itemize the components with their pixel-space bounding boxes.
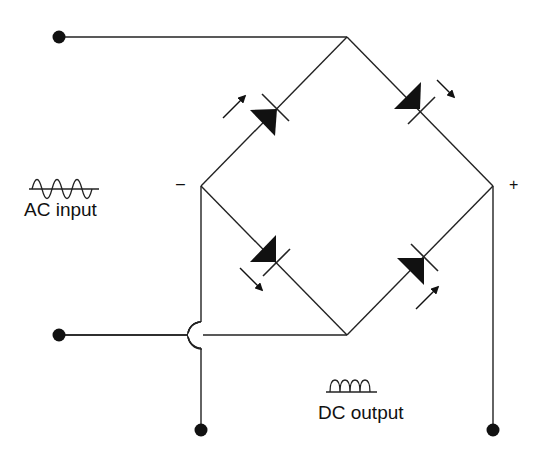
rectified-wave-icon: [326, 380, 377, 392]
terminal-ac-top: [53, 31, 66, 44]
ac-wire-bottom-left: [59, 322, 201, 335]
ac-input-label: AC input: [24, 199, 97, 221]
diode-bottom-right-icon: [397, 244, 438, 309]
negative-terminal-sign: –: [176, 175, 185, 193]
bridge-rectifier-diagram: [0, 0, 545, 463]
positive-terminal-sign: +: [509, 176, 518, 194]
terminal-dc-negative: [195, 424, 208, 437]
terminal-ac-bottom: [53, 329, 66, 342]
sine-wave-icon: [29, 180, 99, 199]
terminal-dc-positive: [487, 424, 500, 437]
diode-bottom-left-icon: [240, 235, 290, 290]
dc-output-label: DC output: [318, 402, 404, 424]
diode-top-right-icon: [394, 80, 454, 124]
